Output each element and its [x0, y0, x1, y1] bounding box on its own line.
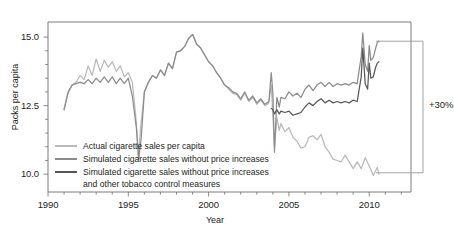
legend-label-actual: Actual cigarette sales per capita: [83, 140, 205, 153]
bracket-annotation: [376, 41, 423, 173]
x-tick-label-1990: 1990: [28, 199, 68, 210]
x-tick-label-2000: 2000: [189, 199, 229, 210]
y-axis-title: Packs per capita: [10, 57, 20, 137]
legend-item-sim-price: Simulated cigarette sales without price …: [55, 153, 269, 166]
legend-swatch-actual: [55, 145, 77, 147]
legend-swatch-sim-price: [55, 158, 77, 160]
series-line-2: [271, 48, 379, 115]
legend-label-sim-price: Simulated cigarette sales without price …: [83, 153, 269, 166]
x-tick-label-2010: 2010: [349, 199, 389, 210]
x-tick-label-2005: 2005: [269, 199, 309, 210]
legend-swatch-sim-price-control: [55, 171, 77, 173]
y-tick-label-15: 15.0: [13, 31, 39, 42]
legend-label-sim-price-control-line2: and other tobacco control measures: [83, 178, 269, 190]
chart-legend: Actual cigarette sales per capita Simula…: [55, 140, 269, 190]
legend-item-actual: Actual cigarette sales per capita: [55, 140, 269, 153]
y-tick-label-10: 10.0: [13, 168, 39, 179]
x-tick-label-1995: 1995: [108, 199, 148, 210]
x-axis-title: Year: [175, 215, 255, 225]
bracket-label-plus-30: +30%: [429, 99, 454, 110]
